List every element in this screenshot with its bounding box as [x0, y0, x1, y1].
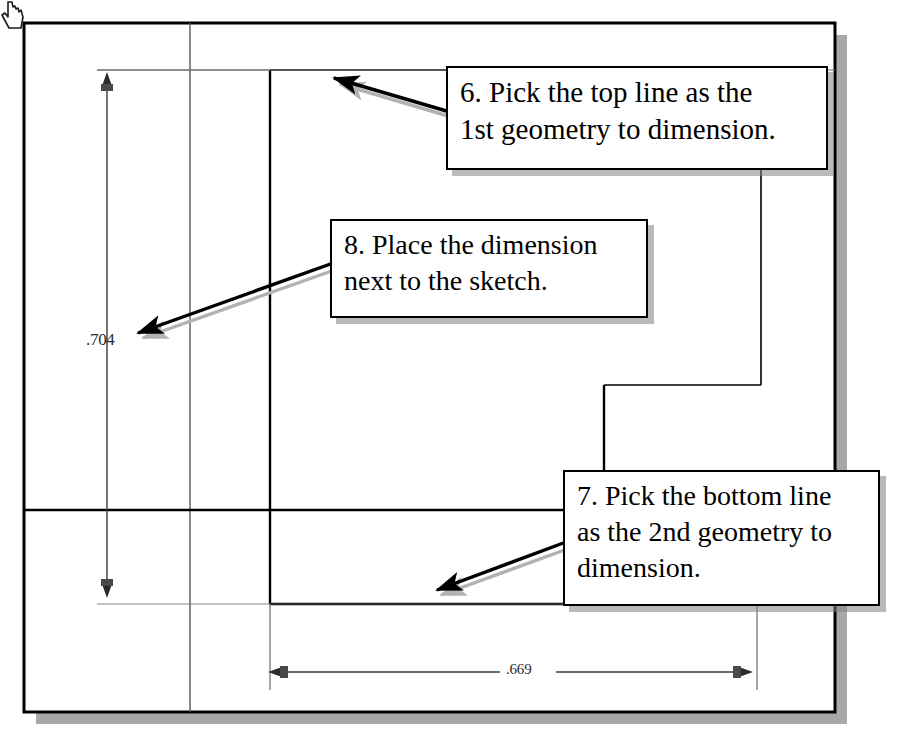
callout-step-6-line-1: 6. Pick the top line as the	[460, 74, 816, 111]
callout-step-8: 8. Place the dimension next to the sketc…	[330, 219, 648, 318]
callout-step-7-line-2: as the 2nd geometry to	[577, 514, 868, 550]
callout-step-7-line-3: dimension.	[577, 550, 868, 586]
callout-step-7-line-1: 7. Pick the bottom line	[577, 478, 868, 514]
callout-step-7: 7. Pick the bottom line as the 2nd geome…	[563, 470, 880, 606]
callout-step-6-line-2: 1st geometry to dimension.	[460, 111, 816, 148]
figure-canvas: 6. Pick the top line as the 1st geometry…	[0, 0, 907, 747]
callout-step-8-line-2: next to the sketch.	[344, 263, 636, 299]
pointing-hand-cursor-icon	[0, 0, 26, 30]
callout-step-6: 6. Pick the top line as the 1st geometry…	[446, 66, 828, 170]
dimension-value-horizontal[interactable]: .669	[506, 661, 531, 678]
callout-step-8-line-1: 8. Place the dimension	[344, 227, 636, 263]
dimension-value-vertical[interactable]: .704	[86, 330, 115, 350]
